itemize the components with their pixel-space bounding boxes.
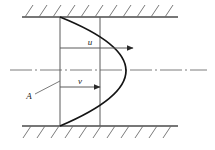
area-callout-group: A (25, 81, 60, 101)
velocity-profile-figure: u v A (0, 0, 215, 150)
parabolic-velocity-profile-curve (60, 17, 126, 126)
figure-canvas: u v A (0, 0, 215, 150)
label-A: A (25, 91, 32, 101)
bottom-wall-hatching (23, 126, 171, 138)
label-u: u (88, 37, 93, 47)
top-wall-hatching (25, 5, 173, 17)
local-velocity-arrow-group: u (60, 37, 133, 48)
bottom-wall-group (22, 126, 178, 138)
top-wall-group (22, 5, 178, 17)
label-v: v (78, 76, 82, 86)
mean-velocity-arrow-group: v (60, 76, 100, 87)
area-leader-line (35, 81, 60, 94)
